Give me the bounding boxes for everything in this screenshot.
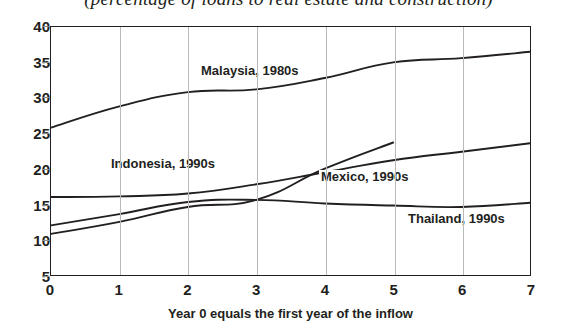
x-tick-label: 5	[379, 282, 409, 297]
series-label-indonesia: Indonesia, 1990s	[109, 157, 217, 172]
x-axis-title: Year 0 equals the first year of the infl…	[50, 306, 531, 321]
chart-title: (percentage of loans to real estate and …	[0, 0, 577, 10]
y-tick-mark	[42, 97, 49, 98]
x-gridline	[463, 27, 464, 275]
chart-figure: (percentage of loans to real estate and …	[0, 0, 577, 327]
x-tick-label: 2	[172, 282, 202, 297]
y-tick-mark	[42, 169, 49, 170]
plot-area: Malaysia, 1980s Indonesia, 1990s Mexico,…	[50, 26, 531, 276]
series-label-malaysia: Malaysia, 1980s	[199, 64, 301, 79]
y-tick-mark	[42, 240, 49, 241]
x-gridline	[120, 27, 121, 275]
series-line-mexico	[51, 142, 393, 233]
x-tick-label: 6	[447, 282, 477, 297]
x-tick-label: 0	[35, 282, 65, 297]
y-tick-mark	[42, 205, 49, 206]
x-gridline	[326, 27, 327, 275]
x-tick-label: 1	[104, 282, 134, 297]
series-label-thailand: Thailand, 1990s	[406, 212, 507, 227]
x-gridline	[257, 27, 258, 275]
y-tick-mark	[42, 133, 49, 134]
y-tick-mark	[42, 62, 49, 63]
x-tick-label: 4	[310, 282, 340, 297]
series-label-mexico: Mexico, 1990s	[319, 170, 410, 185]
x-tick-label: 3	[241, 282, 271, 297]
y-tick-mark	[42, 26, 49, 27]
x-gridline	[395, 27, 396, 275]
x-axis: Year 0 equals the first year of the infl…	[0, 276, 577, 327]
x-tick-label: 7	[516, 282, 546, 297]
x-gridline	[188, 27, 189, 275]
